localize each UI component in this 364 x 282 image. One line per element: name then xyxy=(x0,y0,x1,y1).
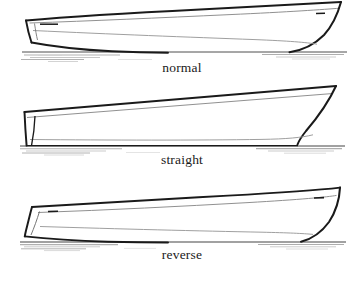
panel-label-normal: normal xyxy=(0,60,364,76)
hull-profile-figure xyxy=(0,0,364,282)
panel-label-straight: straight xyxy=(0,152,364,168)
panel-label-reverse: reverse xyxy=(0,247,364,263)
